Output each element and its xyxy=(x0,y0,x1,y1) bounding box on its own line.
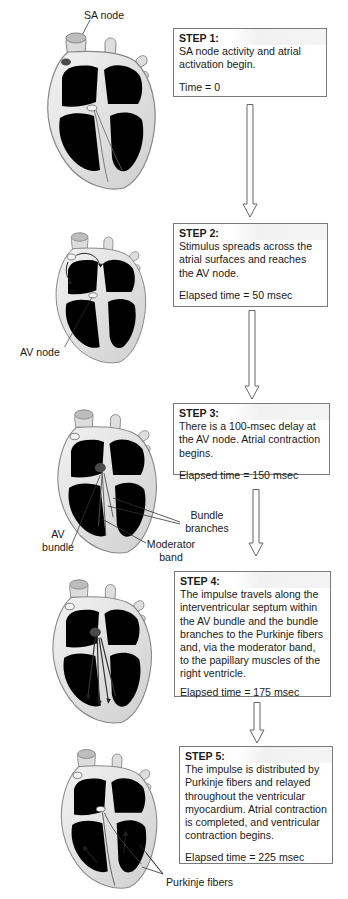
step-3-title: STEP 3: xyxy=(174,404,329,420)
heart-illustration-step-4: .h4 .ch{fill:url(#gDark);stroke:#7a7a7a;… xyxy=(28,568,170,733)
heart-illustration-step-1: .h1 .ch{fill:url(#gCh);stroke:#8a8a8a;st… xyxy=(28,20,168,200)
step-1-time: Time = 0 xyxy=(179,81,321,94)
label-leader-lines-step-5 xyxy=(130,845,170,885)
arrow-down-icon xyxy=(248,489,264,557)
step-4-time: Elapsed time = 175 msec xyxy=(180,686,325,699)
step-3-time: Elapsed time = 150 msec xyxy=(179,469,324,482)
step-2-box: STEP 2: Stimulus spreads across the atri… xyxy=(173,223,328,307)
label-av-node: AV node xyxy=(20,346,60,359)
step-1-box: STEP 1: SA node activity and atrial acti… xyxy=(173,28,327,97)
step-2-title: STEP 2: xyxy=(174,224,327,240)
step-4-description: The impulse travels along the interventr… xyxy=(180,588,325,680)
step-1-title: STEP 1: xyxy=(174,29,326,45)
step-5-title: STEP 5: xyxy=(180,747,332,763)
step-5-time: Elapsed time = 225 msec xyxy=(185,851,327,864)
step-2-description: Stimulus spreads across the atrial surfa… xyxy=(179,240,322,280)
step-1-description: SA node activity and atrial activation b… xyxy=(179,45,321,71)
step-4-box: STEP 4: The impulse travels along the in… xyxy=(174,571,331,697)
label-av-bundle: AV bundle xyxy=(40,528,76,553)
step-2-time: Elapsed time = 50 msec xyxy=(179,289,322,302)
step-5-description: The impulse is distributed by Purkinje f… xyxy=(185,763,327,842)
label-bundle-branches: Bundle branches xyxy=(182,509,232,534)
arrow-down-icon xyxy=(244,310,260,400)
step-3-description: There is a 100-msec delay at the AV node… xyxy=(179,420,324,460)
label-moderator-band: Moderator band xyxy=(144,538,198,563)
arrow-down-icon xyxy=(242,104,258,218)
step-3-box: STEP 3: There is a 100-msec delay at the… xyxy=(173,403,330,475)
label-purkinje-fibers: Purkinje fibers xyxy=(166,876,233,889)
step-4-title: STEP 4: xyxy=(175,572,330,588)
arrow-down-icon xyxy=(249,702,265,744)
step-5-box: STEP 5: The impulse is distributed by Pu… xyxy=(179,746,333,864)
